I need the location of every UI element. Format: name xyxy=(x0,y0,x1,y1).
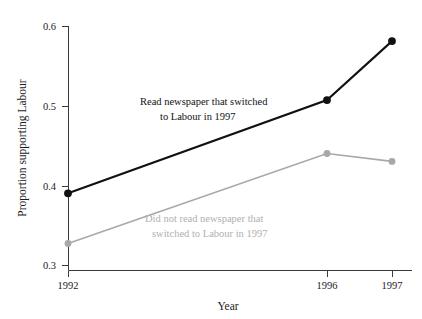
y-tick-label-0.5: 0.5 xyxy=(43,101,56,112)
x-tick-label-1997: 1997 xyxy=(382,280,403,291)
series-point-did-not-read-1997 xyxy=(389,158,396,165)
annotation-did-not-read-line1: Did not read newspaper that xyxy=(145,213,263,224)
series-point-read-switched-1992 xyxy=(64,189,72,197)
series-point-did-not-read-1996 xyxy=(324,150,331,157)
y-tick-label-0.6: 0.6 xyxy=(43,21,56,32)
annotation-did-not-read-line2: switched to Labour in 1997 xyxy=(152,228,267,239)
chart-background xyxy=(0,0,422,319)
x-axis-title: Year xyxy=(217,300,238,312)
x-tick-label-1992: 1992 xyxy=(58,280,79,291)
y-axis-title: Proportion supporting Labour xyxy=(16,79,29,217)
annotation-read-switched-line2: to Labour in 1997 xyxy=(160,111,236,122)
x-tick-label-1996: 1996 xyxy=(317,280,338,291)
series-point-read-switched-1997 xyxy=(388,37,396,45)
chart-canvas: 0.6 0.5 0.4 0.3 1992 1996 1997 Proportio… xyxy=(0,0,422,319)
series-point-did-not-read-1992 xyxy=(65,240,72,247)
line-chart: 0.6 0.5 0.4 0.3 1992 1996 1997 Proportio… xyxy=(0,0,422,319)
y-tick-label-0.3: 0.3 xyxy=(43,260,56,271)
y-tick-label-0.4: 0.4 xyxy=(43,181,57,192)
annotation-read-switched-line1: Read newspaper that switched xyxy=(140,96,268,107)
series-point-read-switched-1996 xyxy=(323,96,331,104)
